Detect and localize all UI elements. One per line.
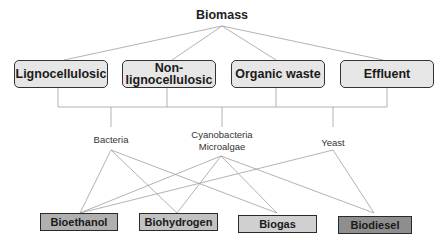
product-node-bioethanol: Bioethanol — [40, 213, 118, 231]
source-node-lignocellulosic: Lignocellulosic — [14, 60, 108, 88]
edge-bacteria-bioethanol — [80, 150, 111, 213]
edge-yeast-bioethanol — [80, 150, 333, 213]
edge-bacteria-biohydrogen — [111, 150, 177, 213]
edge-biomass-organic-waste — [222, 26, 276, 60]
edge-yeast-biodiesel — [333, 150, 374, 213]
root-node-biomass: Biomass — [172, 8, 272, 22]
product-node-biohydrogen: Biohydrogen — [139, 213, 218, 231]
product-node-biogas: Biogas — [238, 215, 317, 233]
edge-cyano-biogas — [221, 156, 277, 213]
organism-node-cyanobacteria-microalgae: Cyanobacteria Microalgae — [177, 129, 267, 153]
organism-node-bacteria: Bacteria — [66, 134, 156, 146]
edge-biomass-effluent — [222, 26, 383, 60]
source-node-organic-waste: Organic waste — [231, 60, 325, 88]
connector-lines — [0, 0, 445, 247]
product-node-biodiesel: Biodiesel — [338, 216, 412, 234]
source-node-effluent: Effluent — [340, 60, 434, 88]
organism-label-cyanobacteria: Cyanobacteria — [177, 129, 267, 141]
edge-biomass-lignocellulosic — [64, 26, 222, 60]
organism-node-yeast: Yeast — [288, 137, 378, 149]
edge-bacteria-biogas — [111, 150, 277, 213]
edge-cyano-bioethanol — [80, 156, 221, 213]
organism-label-microalgae: Microalgae — [177, 141, 267, 153]
source-node-non-lignocellulosic: Non-lignocellulosic — [122, 60, 216, 88]
edge-cyano-biodiesel — [221, 156, 374, 213]
